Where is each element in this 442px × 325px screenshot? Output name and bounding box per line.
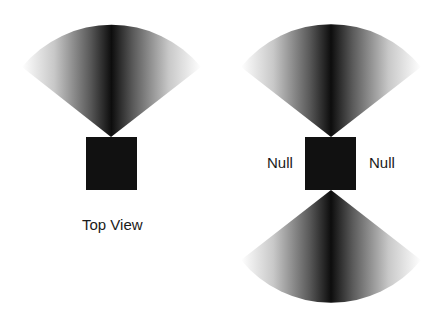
beam-fan-up xyxy=(241,24,421,137)
null-label-right: Null xyxy=(369,154,395,171)
source-box xyxy=(86,137,137,190)
beam-fan-down xyxy=(241,190,421,303)
source-box xyxy=(305,137,356,190)
top-view-caption: Top View xyxy=(82,216,143,233)
beam-fan-up xyxy=(22,25,201,137)
null-label-left: Null xyxy=(267,154,293,171)
top-view-diagram xyxy=(22,25,201,190)
